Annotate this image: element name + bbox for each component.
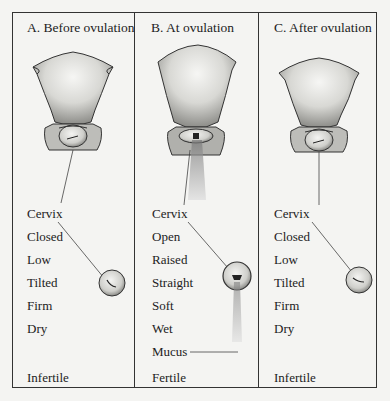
column-b-label: Straight — [152, 275, 193, 291]
column-a-label: Cervix — [27, 206, 62, 222]
column-a-label: Closed — [27, 229, 63, 245]
column-b-label: Soft — [152, 298, 174, 314]
column-c-label: Cervix — [274, 206, 309, 222]
column-a-fertility: Infertile — [27, 370, 69, 386]
cervix-closeup-b-icon — [188, 222, 251, 352]
column-a-label: Low — [27, 252, 51, 268]
cervix-closeup-c-icon — [312, 222, 372, 293]
uterus-b-icon — [158, 45, 236, 205]
column-c-label: Tilted — [274, 275, 305, 291]
column-a-label: Tilted — [27, 275, 58, 291]
column-c-label: Closed — [274, 229, 310, 245]
column-c-label: Dry — [274, 321, 294, 337]
column-b-label: Wet — [152, 321, 173, 337]
column-b-label: Open — [152, 229, 180, 245]
column-b-label: Cervix — [152, 206, 187, 222]
column-c-label: Firm — [274, 298, 299, 314]
column-a-label: Dry — [27, 321, 47, 337]
column-b-label: Mucus — [152, 344, 187, 360]
cervix-closeup-a-icon — [58, 222, 125, 296]
column-b-fertility: Fertile — [152, 370, 186, 386]
column-b-label: Raised — [152, 252, 187, 268]
column-c-fertility: Infertile — [274, 370, 316, 386]
uterus-c-icon — [279, 58, 359, 205]
column-a-label: Firm — [27, 298, 52, 314]
uterus-cervix-illustrations — [0, 0, 390, 401]
column-c-label: Low — [274, 252, 298, 268]
uterus-a-icon — [33, 52, 113, 203]
